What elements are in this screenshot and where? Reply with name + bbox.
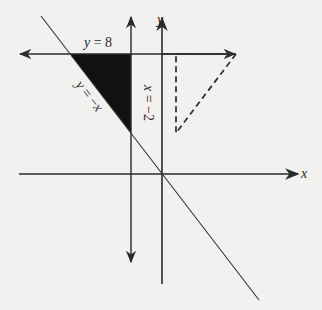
dashed-triangle: [176, 54, 236, 133]
label-x-equals-neg2: x = −2: [141, 84, 156, 121]
y-axis-label: y: [155, 12, 164, 27]
label-y-equals-8: y = 8: [82, 35, 112, 50]
x-axis-label: x: [300, 166, 308, 181]
diagram-canvas: x y y = 8 x = −2 y = −x: [0, 0, 322, 310]
coordinate-diagram: x y y = 8 x = −2 y = −x: [0, 0, 322, 310]
line-y-equals-neg-x: [41, 16, 259, 300]
